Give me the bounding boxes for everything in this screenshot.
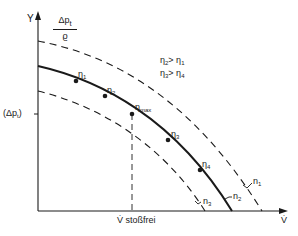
x-axis-arrow-icon [279,208,288,214]
point-eta-max [130,112,135,117]
label-n3: n3 [203,197,211,207]
curve-n3 [38,91,205,211]
label-eta3: η3 [171,130,179,140]
leader-n2 [225,197,232,199]
label-n2: n2 [233,192,241,202]
legend-relation-2: η3> η4 [160,69,184,79]
y-axis-arrow-icon [35,11,41,20]
label-eta-max: ηmax [135,103,151,113]
curve-n1 [38,41,262,211]
y-tick-label: (Δpt) [3,109,22,119]
y-axis-label: Y [27,14,34,24]
x-axis-label: V̇ [281,216,287,225]
leader-n3 [195,201,201,204]
label-eta1: η1 [78,70,86,80]
point-eta3 [166,138,171,143]
y-quantity-fraction: Δpt ϱ [53,15,77,41]
x-tick-label: V̇ stoßfrei [117,216,156,225]
label-eta2: η2 [107,86,115,96]
curve-n2 [38,66,232,211]
diagram-canvas [0,0,298,236]
legend-relation-1: η2> η1 [160,56,184,66]
label-eta4: η4 [202,160,210,170]
label-n1: n1 [253,177,261,187]
